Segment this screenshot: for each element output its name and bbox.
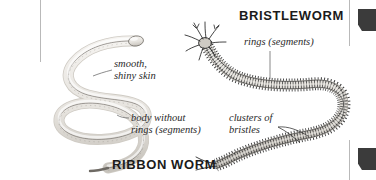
label-clusters-of-bristles-line2: bristles xyxy=(229,124,272,136)
page-divider-right-bottom xyxy=(349,140,350,180)
bristleworm-title: BRISTLEWORM xyxy=(239,8,344,23)
figure-illustration xyxy=(0,0,376,180)
page-divider-left xyxy=(40,0,41,62)
label-body-without-rings: body without rings (segments) xyxy=(131,112,201,136)
label-body-without-rings-line2: rings (segments) xyxy=(131,124,201,136)
label-clusters-of-bristles-line1: clusters of xyxy=(229,112,272,124)
bristleworm-head-capsule xyxy=(199,38,212,49)
label-clusters-of-bristles: clusters of bristles xyxy=(229,112,272,136)
worm-comparison-figure: RIBBON WORM BRISTLEWORM smooth, shiny sk… xyxy=(0,0,376,180)
page-edge-tab-top xyxy=(358,9,376,31)
bristleworm-bristles-outer xyxy=(206,44,344,165)
label-rings-segments: rings (segments) xyxy=(244,36,314,48)
bristleworm-body-fill xyxy=(206,44,344,165)
bristleworm-head xyxy=(185,22,226,60)
page-edge-tab-bottom xyxy=(358,148,376,170)
bristleworm-segment-rings xyxy=(206,44,344,165)
ribbon-worm-title: RIBBON WORM xyxy=(112,157,216,172)
label-smooth-shiny-skin-line2: shiny skin xyxy=(114,70,156,82)
label-body-without-rings-line1: body without xyxy=(131,112,201,124)
bristleworm-body-highlight xyxy=(206,44,344,165)
bristleworm-body-shade xyxy=(206,44,344,165)
label-rings-segments-line1: rings (segments) xyxy=(244,36,314,48)
bristleworm-head-tufts xyxy=(193,24,219,29)
leader-smooth-skin xyxy=(93,70,112,76)
page-divider-right-top xyxy=(349,0,350,46)
label-smooth-shiny-skin-line1: smooth, xyxy=(114,58,156,70)
ribbon-worm-illustration xyxy=(59,35,146,171)
label-smooth-shiny-skin: smooth, shiny skin xyxy=(114,58,156,82)
